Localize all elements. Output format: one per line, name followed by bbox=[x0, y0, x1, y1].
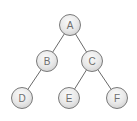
node-label-b: B bbox=[44, 56, 51, 67]
tree-node-b: B bbox=[37, 51, 58, 72]
node-label-f: F bbox=[114, 93, 120, 104]
tree-node-d: D bbox=[12, 88, 33, 109]
node-label-e: E bbox=[66, 93, 73, 104]
tree-node-c: C bbox=[82, 51, 103, 72]
binary-tree-diagram: A B C D E F bbox=[0, 0, 137, 121]
node-label-d: D bbox=[18, 93, 25, 104]
tree-node-a: A bbox=[60, 15, 81, 36]
node-label-c: C bbox=[88, 56, 95, 67]
tree-node-e: E bbox=[59, 88, 80, 109]
tree-node-f: F bbox=[107, 88, 128, 109]
nodes-layer: A B C D E F bbox=[12, 15, 128, 109]
node-label-a: A bbox=[67, 20, 74, 31]
